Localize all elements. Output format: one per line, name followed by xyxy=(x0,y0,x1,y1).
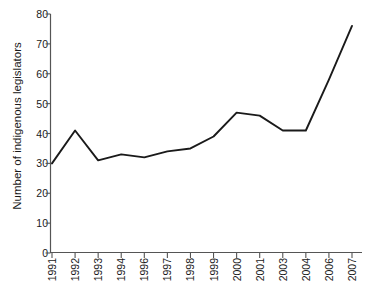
x-tick-label: 1999 xyxy=(207,256,221,296)
y-tick-label: 30 xyxy=(26,157,48,169)
y-tick-label: 50 xyxy=(26,98,48,110)
x-tick-label: 2000 xyxy=(230,256,244,296)
x-tick-label-text: 2004 xyxy=(300,258,311,281)
x-tick-label-text: 1992 xyxy=(70,258,81,281)
x-tick-label-text: 2001 xyxy=(254,258,265,281)
x-tick-label: 2001 xyxy=(253,256,267,296)
x-tick-label: 1993 xyxy=(91,256,105,296)
x-tick-label: 1998 xyxy=(183,256,197,296)
x-tick-label-text: 1996 xyxy=(139,258,150,281)
x-tick-label-text: 1999 xyxy=(208,258,219,281)
y-tick-label: 70 xyxy=(26,38,48,50)
x-tick-label-text: 1993 xyxy=(93,258,104,281)
x-tick-label-text: 2007 xyxy=(347,258,358,281)
y-axis-tick-labels: 01020304050607080 xyxy=(22,0,48,297)
axis-lines xyxy=(51,14,363,253)
x-tick-label: 1996 xyxy=(137,256,151,296)
plot-area xyxy=(50,14,362,253)
x-tick-label-text: 2006 xyxy=(323,258,334,281)
x-tick-label: 1991 xyxy=(45,256,59,296)
x-tick-label-text: 1994 xyxy=(116,258,127,281)
x-tick-label: 1992 xyxy=(68,256,82,296)
x-tick-label: 2004 xyxy=(299,256,313,296)
line-chart-svg xyxy=(50,14,362,253)
y-tick-label: 10 xyxy=(26,217,48,229)
chart-figure: Number of indigenous legislators 0102030… xyxy=(0,0,374,297)
x-tick-label: 1994 xyxy=(114,256,128,296)
data-line-series xyxy=(52,26,352,163)
x-tick-label-text: 2003 xyxy=(277,258,288,281)
x-tick-label: 2007 xyxy=(345,256,359,296)
x-tick-label: 1997 xyxy=(160,256,174,296)
y-tick-label: 60 xyxy=(26,68,48,80)
x-tick-label: 2006 xyxy=(322,256,336,296)
y-tick-label: 40 xyxy=(26,128,48,140)
x-axis-tick-labels: 1991199219931994199619971998199920002001… xyxy=(50,256,362,297)
y-tick-label: 20 xyxy=(26,187,48,199)
x-tick-label-text: 1998 xyxy=(185,258,196,281)
y-tick-label: 80 xyxy=(26,8,48,20)
x-tick-label-text: 1991 xyxy=(47,258,58,281)
x-tick-label: 2003 xyxy=(276,256,290,296)
x-tick-label-text: 2000 xyxy=(231,258,242,281)
x-tick-label-text: 1997 xyxy=(162,258,173,281)
